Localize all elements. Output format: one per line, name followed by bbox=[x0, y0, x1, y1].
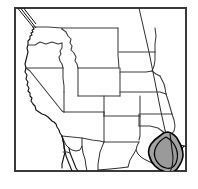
range-map-figure: Western United States and northern Mexic… bbox=[0, 0, 198, 189]
map-canvas bbox=[0, 0, 198, 189]
